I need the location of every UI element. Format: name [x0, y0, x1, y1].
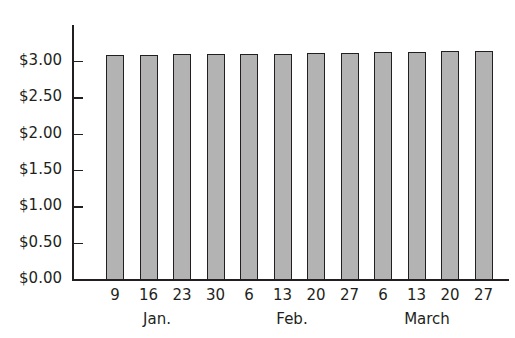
x-tick-label: 6 [234, 287, 264, 303]
y-tick-mark [73, 206, 83, 208]
x-tick-label: 20 [435, 287, 465, 303]
month-label: Feb. [252, 311, 332, 327]
y-tick-mark [73, 61, 83, 63]
bar [441, 51, 459, 280]
x-tick-label: 27 [469, 287, 499, 303]
bar [240, 54, 258, 280]
bar-chart: $0.00$0.50$1.00$1.50$2.00$2.50$3.00 9162… [0, 0, 515, 338]
bar [207, 54, 225, 280]
x-tick-label: 20 [301, 287, 331, 303]
bar [173, 54, 191, 280]
bar [274, 54, 292, 280]
x-tick-label: 13 [402, 287, 432, 303]
x-tick-label: 9 [100, 287, 130, 303]
bar [475, 51, 493, 280]
x-tick-label: 6 [368, 287, 398, 303]
y-tick-mark [73, 170, 83, 172]
x-tick-label: 16 [134, 287, 164, 303]
y-tick-label: $2.00 [0, 125, 62, 141]
y-tick-label: $0.00 [0, 270, 62, 286]
x-tick-label: 27 [335, 287, 365, 303]
y-tick-mark [73, 97, 83, 99]
x-tick-label: 23 [167, 287, 197, 303]
bar [408, 52, 426, 280]
y-tick-label: $1.00 [0, 197, 62, 213]
y-tick-mark [73, 243, 83, 245]
x-tick-label: 13 [268, 287, 298, 303]
y-tick-label: $0.50 [0, 234, 62, 250]
bar [374, 52, 392, 280]
y-tick-label: $3.00 [0, 52, 62, 68]
bar [341, 53, 359, 280]
bar [106, 55, 124, 280]
bar [307, 53, 325, 280]
y-tick-label: $2.50 [0, 88, 62, 104]
x-tick-label: 30 [201, 287, 231, 303]
y-tick-label: $1.50 [0, 161, 62, 177]
y-tick-mark [73, 134, 83, 136]
bar [140, 55, 158, 280]
month-label: Jan. [117, 311, 197, 327]
month-label: March [387, 311, 467, 327]
